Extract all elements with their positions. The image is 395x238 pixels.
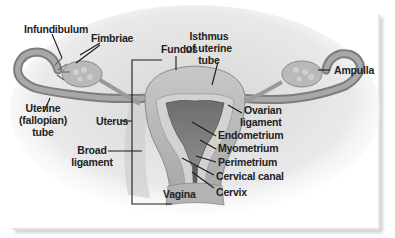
uterus-anatomy-diagram: Infundibulum Fimbriae Fundus Isthmus of … xyxy=(0,0,395,238)
label-uterine-tube-line3: tube xyxy=(32,126,54,138)
label-cervix: Cervix xyxy=(216,186,247,198)
label-infundibulum: Infundibulum xyxy=(24,23,88,35)
label-isthmus-line3: tube xyxy=(198,54,220,66)
label-ampulla: Ampulla xyxy=(334,64,374,76)
label-broad-ligament-line2: ligament xyxy=(71,156,113,168)
label-perimetrium: Perimetrium xyxy=(218,156,277,168)
label-isthmus-line2: of uterine xyxy=(186,42,232,54)
label-ovarian-ligament-line2: ligament xyxy=(240,116,282,128)
label-broad-ligament-line1: Broad xyxy=(77,144,106,156)
label-cervical-canal: Cervical canal xyxy=(216,170,284,182)
label-fimbriae: Fimbriae xyxy=(91,32,134,44)
label-vagina: Vagina xyxy=(163,188,196,200)
label-endometrium: Endometrium xyxy=(218,129,283,141)
label-ovarian-ligament-line1: Ovarian xyxy=(244,104,282,116)
left-ovary xyxy=(62,61,102,87)
label-isthmus-line1: Isthmus xyxy=(190,30,229,42)
right-ovary xyxy=(282,61,322,87)
label-uterine-tube-line1: Uterine xyxy=(26,102,61,114)
label-myometrium: Myometrium xyxy=(218,142,278,154)
label-uterine-tube-line2: (fallopian) xyxy=(19,114,67,126)
label-uterus: Uterus xyxy=(96,115,128,127)
